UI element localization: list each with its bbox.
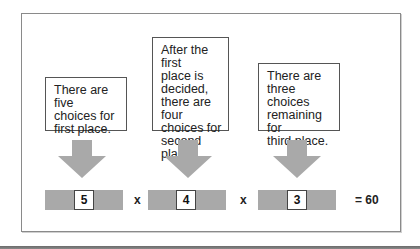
step-2-text-box: After the first place is decided, there … — [152, 37, 229, 131]
step-3-text-box: There are three choices remaining for th… — [258, 63, 340, 131]
first-place-bar: 5 — [45, 190, 123, 210]
step-1-line-1: There are five — [54, 84, 126, 110]
multiply-operator: x — [240, 193, 247, 207]
step-1-text-box: There are five choices for first place. — [45, 77, 127, 131]
second-place-value: 4 — [176, 190, 196, 210]
down-arrow-icon — [57, 140, 107, 178]
first-place-value: 5 — [74, 190, 94, 210]
multiply-operator: x — [134, 193, 141, 207]
second-place-bar: 4 — [148, 190, 226, 210]
third-place-bar: 3 — [258, 190, 336, 210]
result-total: = 60 — [355, 193, 379, 207]
step-1-line-3: first place. — [54, 123, 126, 136]
step-3-line-1: There are three — [267, 70, 339, 96]
down-arrow-icon — [272, 140, 322, 178]
third-place-value: 3 — [287, 190, 307, 210]
down-arrow-icon — [163, 140, 213, 178]
step-2-line-4: there are four — [161, 96, 228, 122]
step-2-line-1: After the first — [161, 44, 228, 70]
step-3-line-3: remaining for — [267, 109, 339, 135]
